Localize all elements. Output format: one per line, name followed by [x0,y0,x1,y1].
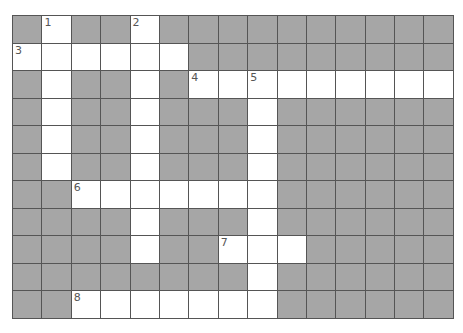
block-cell [219,126,248,154]
open-cell[interactable] [189,181,218,209]
block-cell [160,16,189,44]
block-cell [336,126,365,154]
block-cell [366,264,395,292]
open-cell[interactable] [101,181,130,209]
open-cell[interactable] [131,99,160,127]
open-cell[interactable] [219,71,248,99]
block-cell [395,99,424,127]
open-cell[interactable] [131,44,160,72]
block-cell [42,264,71,292]
open-cell[interactable] [248,154,277,182]
block-cell [395,126,424,154]
clue-number: 7 [221,237,228,248]
open-cell[interactable] [395,71,424,99]
open-cell[interactable] [336,71,365,99]
block-cell [219,264,248,292]
open-cell[interactable] [248,126,277,154]
block-cell [248,44,277,72]
open-cell[interactable]: 3 [13,44,42,72]
open-cell[interactable] [189,291,218,319]
block-cell [424,291,453,319]
open-cell[interactable] [248,99,277,127]
open-cell[interactable] [278,236,307,264]
block-cell [336,154,365,182]
open-cell[interactable] [248,291,277,319]
block-cell [336,16,365,44]
open-cell[interactable] [160,44,189,72]
open-cell[interactable]: 4 [189,71,218,99]
open-cell[interactable] [248,264,277,292]
open-cell[interactable]: 1 [42,16,71,44]
open-cell[interactable] [131,291,160,319]
block-cell [395,154,424,182]
block-cell [366,181,395,209]
block-cell [395,16,424,44]
open-cell[interactable]: 5 [248,71,277,99]
open-cell[interactable] [101,291,130,319]
open-cell[interactable] [101,44,130,72]
open-cell[interactable] [248,236,277,264]
clue-number: 4 [191,72,198,83]
block-cell [395,44,424,72]
block-cell [424,181,453,209]
block-cell [307,264,336,292]
open-cell[interactable] [131,209,160,237]
clue-number: 2 [133,17,140,28]
open-cell[interactable] [131,71,160,99]
block-cell [424,44,453,72]
block-cell [101,71,130,99]
open-cell[interactable] [219,291,248,319]
open-cell[interactable] [278,71,307,99]
block-cell [395,236,424,264]
block-cell [336,209,365,237]
block-cell [278,181,307,209]
clue-number: 5 [250,72,257,83]
block-cell [278,264,307,292]
block-cell [424,209,453,237]
block-cell [336,99,365,127]
block-cell [307,154,336,182]
block-cell [42,181,71,209]
block-cell [72,209,101,237]
block-cell [72,236,101,264]
block-cell [13,264,42,292]
block-cell [189,126,218,154]
block-cell [278,291,307,319]
open-cell[interactable] [366,71,395,99]
open-cell[interactable] [160,181,189,209]
block-cell [72,264,101,292]
open-cell[interactable] [131,154,160,182]
open-cell[interactable] [219,181,248,209]
open-cell[interactable]: 6 [72,181,101,209]
open-cell[interactable] [42,44,71,72]
block-cell [366,291,395,319]
open-cell[interactable] [248,209,277,237]
open-cell[interactable]: 2 [131,16,160,44]
open-cell[interactable] [424,71,453,99]
block-cell [13,291,42,319]
block-cell [13,154,42,182]
open-cell[interactable]: 7 [219,236,248,264]
block-cell [160,99,189,127]
block-cell [160,236,189,264]
block-cell [219,16,248,44]
open-cell[interactable] [131,126,160,154]
open-cell[interactable] [131,181,160,209]
open-cell[interactable] [42,126,71,154]
open-cell[interactable] [131,236,160,264]
open-cell[interactable] [248,181,277,209]
open-cell[interactable] [42,154,71,182]
open-cell[interactable] [72,44,101,72]
block-cell [424,99,453,127]
block-cell [336,291,365,319]
open-cell[interactable] [307,71,336,99]
block-cell [42,209,71,237]
block-cell [189,44,218,72]
open-cell[interactable]: 8 [72,291,101,319]
open-cell[interactable] [42,99,71,127]
block-cell [42,236,71,264]
block-cell [13,236,42,264]
open-cell[interactable] [160,291,189,319]
block-cell [160,71,189,99]
open-cell[interactable] [42,71,71,99]
